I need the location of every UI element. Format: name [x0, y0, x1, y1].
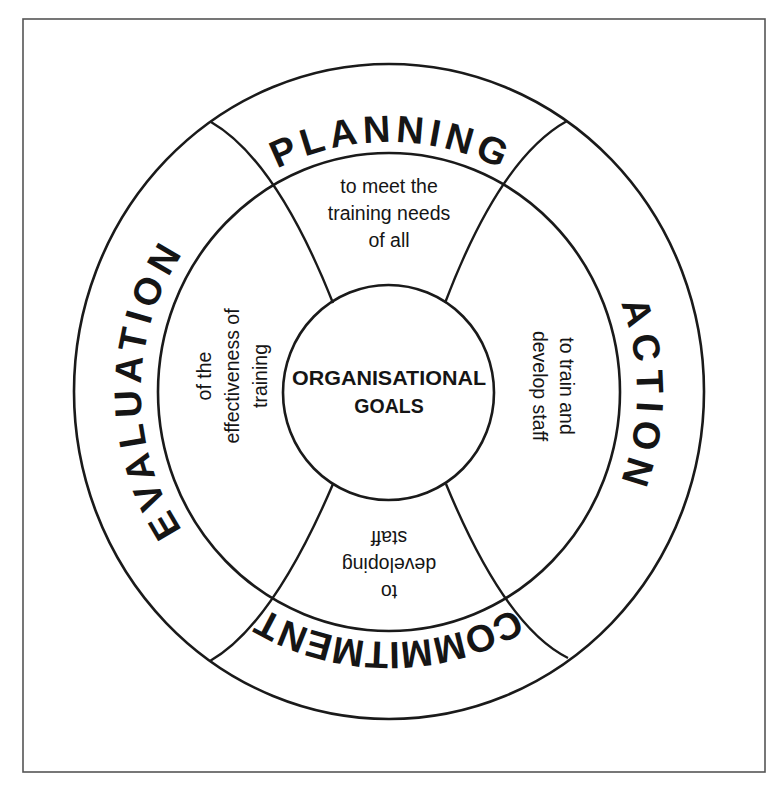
- segment-bottom-text: to developing staff: [342, 527, 436, 603]
- label-evaluation: EVALUATION: [107, 237, 189, 548]
- training-cycle-diagram: PLANNING ACTION COMMITMENT EVALUATION to…: [0, 0, 784, 791]
- center-line-1: ORGANISATIONAL: [292, 367, 486, 389]
- segment-bottom-line-2: developing: [342, 554, 436, 576]
- center-goals: ORGANISATIONAL GOALS: [292, 367, 486, 417]
- center-line-2: GOALS: [354, 395, 423, 417]
- segment-left-line-2: effectiveness of: [221, 308, 243, 444]
- segment-top-line-2: training needs: [328, 202, 451, 224]
- outer-ring: [74, 64, 704, 719]
- segment-bottom-line-3: staff: [370, 527, 407, 549]
- segment-right-line-1: to train and: [556, 337, 578, 435]
- segment-top-line-1: to meet the: [340, 175, 438, 197]
- label-action: ACTION: [613, 293, 671, 492]
- segment-left-line-3: training: [249, 344, 271, 408]
- segment-top-text: to meet the training needs of all: [328, 175, 451, 251]
- segment-left-text: of the effectiveness of training: [193, 308, 271, 444]
- segment-right-line-2: develop staff: [529, 331, 551, 442]
- inner-circle: [283, 285, 494, 500]
- label-planning: PLANNING: [263, 108, 514, 176]
- segment-bottom-line-1: to: [381, 581, 397, 603]
- label-commitment: COMMITMENT: [248, 601, 530, 676]
- segment-left-line-1: of the: [193, 352, 215, 401]
- segment-top-line-3: of all: [368, 229, 409, 251]
- segment-right-text: to train and develop staff: [529, 331, 578, 442]
